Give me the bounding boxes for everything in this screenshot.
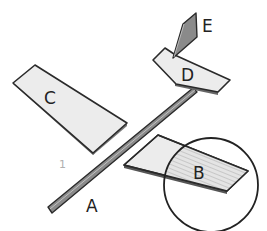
assembly-diagram: E D C B A 1 <box>0 0 267 231</box>
step-number: 1 <box>59 158 66 171</box>
part-b <box>124 135 248 194</box>
label-c: C <box>44 88 56 108</box>
label-d: D <box>181 65 194 85</box>
label-b: B <box>193 163 205 183</box>
label-a: A <box>86 196 98 216</box>
label-e: E <box>202 16 213 36</box>
part-c <box>13 65 127 155</box>
part-e-fin <box>173 13 197 58</box>
